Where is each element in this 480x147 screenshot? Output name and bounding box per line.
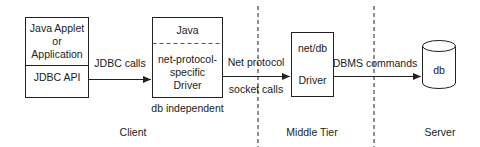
net-protocol-arrow: Net protocol socket calls — [223, 56, 291, 95]
jdbc-architecture-diagram: Java Applet or Application JDBC API JDBC… — [0, 0, 480, 147]
jdbc-api-label: JDBC API — [34, 71, 81, 83]
middle-driver-label: Driver — [299, 74, 328, 86]
net-protocol-driver-box: Java net-protocol- specific Driver — [153, 18, 223, 98]
driver-box-line-1: net-protocol- — [158, 53, 217, 65]
dbms-commands-label: DBMS commands — [333, 57, 418, 69]
driver-box-line-3: Driver — [174, 79, 203, 91]
net-protocol-label: Net protocol — [228, 56, 285, 68]
client-box-line-3: Application — [31, 48, 83, 60]
tier-label-client: Client — [120, 126, 147, 138]
database-cylinder-icon: db — [423, 41, 456, 89]
tier-label-server: Server — [425, 126, 456, 138]
net-db-label: net/db — [298, 42, 327, 54]
db-label: db — [433, 64, 445, 76]
socket-calls-label: socket calls — [229, 83, 283, 95]
tier-label-middle: Middle Tier — [286, 126, 338, 138]
driver-box-line-2: specific — [170, 66, 205, 78]
client-box-line-2: or — [52, 35, 62, 47]
jdbc-calls-label: JDBC calls — [94, 57, 145, 69]
dbms-commands-arrow: DBMS commands — [333, 57, 421, 77]
java-label: Java — [176, 24, 198, 36]
middle-tier-driver-box: net/db Driver — [292, 33, 334, 97]
client-application-box: Java Applet or Application JDBC API — [26, 18, 89, 98]
client-box-line-1: Java Applet — [30, 22, 84, 34]
jdbc-calls-arrow: JDBC calls — [89, 57, 152, 80]
db-independent-caption: db independent — [151, 102, 223, 114]
